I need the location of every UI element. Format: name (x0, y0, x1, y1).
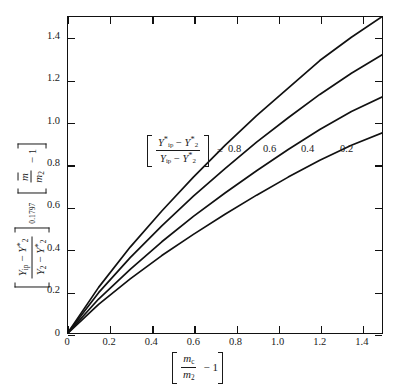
x-tick-label: 0.2 (89, 336, 129, 347)
x-tick-bottom (194, 326, 195, 333)
x-tick-label: 0 (47, 336, 87, 347)
legend-equals-sign: = (217, 145, 223, 156)
y-axis-label: Yip − Y*2 Y2 − Y*2 0.1797 m m2 − 1 (15, 125, 50, 305)
plot-area (67, 16, 383, 334)
chart-figure: 00.20.40.60.81.01.21.400.20.40.60.81.01.… (0, 0, 395, 390)
y-tick-label: 0 (26, 327, 60, 338)
x-tick-top (321, 17, 322, 24)
y-tick-right (375, 250, 382, 251)
x-tick-top (68, 17, 69, 24)
x-tick-label: 0.6 (173, 336, 213, 347)
y-tick-left (68, 81, 75, 82)
y-tick-left (68, 165, 75, 166)
y-tick-left (68, 38, 75, 39)
y-axis-exponent: 0.1797 (28, 203, 35, 224)
y-tick-right (375, 165, 382, 166)
y-tick-right (375, 81, 382, 82)
y-tick-label: 1.0 (26, 115, 60, 126)
x-tick-bottom (363, 326, 364, 333)
y-tick-label: 1.2 (26, 72, 60, 83)
y-tick-right (375, 123, 382, 124)
x-tick-bottom (110, 326, 111, 333)
y-tick-left (68, 123, 75, 124)
x-tick-label: 1.2 (300, 336, 340, 347)
legend-value-0.6: 0.6 (263, 143, 276, 154)
x-tick-bottom (68, 326, 69, 333)
y-tick-right (375, 293, 382, 294)
x-tick-top (152, 17, 153, 24)
y-tick-left (68, 208, 75, 209)
x-tick-bottom (237, 326, 238, 333)
x-tick-top (279, 17, 280, 24)
x-tick-bottom (321, 326, 322, 333)
x-tick-top (194, 17, 195, 24)
y-axis-term-power: Yip − Y*2 Y2 − Y*2 0.1797 (15, 203, 50, 292)
x-tick-label: 1.4 (342, 336, 382, 347)
y-tick-left (68, 293, 75, 294)
legend-value-0.8: 0.8 (228, 143, 241, 154)
y-tick-left (68, 250, 75, 251)
x-axis-expression: mc m2 − 1 (168, 352, 227, 384)
legend-value-0.4: 0.4 (301, 143, 314, 154)
legend-bracket-expression: Y*ip − Y*2 Yip − Y*2 (143, 135, 213, 167)
x-tick-label: 1.0 (258, 336, 298, 347)
x-tick-top (237, 17, 238, 24)
x-tick-bottom (152, 326, 153, 333)
y-axis-term-mass: m m2 − 1 (17, 140, 46, 198)
y-tick-right (375, 208, 382, 209)
legend-equation: Y*ip − Y*2 Yip − Y*2 = (143, 135, 223, 167)
y-tick-label: 1.4 (26, 30, 60, 41)
y-tick-right (375, 38, 382, 39)
x-tick-top (363, 17, 364, 24)
x-tick-label: 0.8 (216, 336, 256, 347)
x-tick-bottom (279, 326, 280, 333)
x-tick-top (110, 17, 111, 24)
x-tick-label: 0.4 (131, 336, 171, 347)
x-axis-label: mc m2 − 1 (0, 352, 395, 384)
legend-value-0.2: 0.2 (340, 143, 353, 154)
